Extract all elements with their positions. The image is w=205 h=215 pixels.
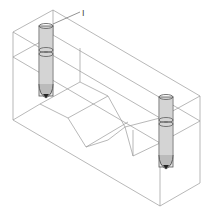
leader-annotation: I: [53, 8, 85, 24]
part-label: I: [82, 8, 85, 18]
probe-right: [159, 95, 173, 170]
diagram-canvas: I: [0, 0, 205, 215]
probe-left: [39, 24, 53, 99]
